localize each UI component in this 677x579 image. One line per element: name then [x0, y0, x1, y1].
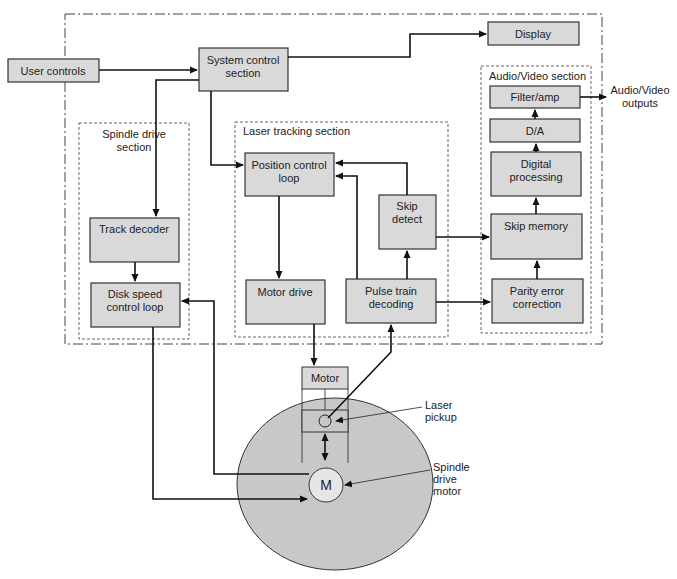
- parity-error-correction-block: Parity error correction: [492, 279, 583, 323]
- track-decoder-block: Track decoder: [90, 218, 179, 262]
- motor-drive-block: Motor drive: [246, 280, 325, 324]
- svg-text:decoding: decoding: [369, 298, 414, 310]
- system-to-display-arrow: [288, 34, 486, 57]
- av-outputs-label-1: Audio/Video: [610, 84, 669, 96]
- spindle-motor-label-3: motor: [433, 485, 461, 497]
- filter-amp-block: Filter/amp: [490, 86, 580, 108]
- skip-detect-block: Skip detect: [379, 195, 436, 249]
- svg-text:Parity error: Parity error: [510, 285, 565, 297]
- display-block: Display: [488, 22, 579, 45]
- svg-text:Track decoder: Track decoder: [99, 223, 169, 235]
- spindle-motor-label: M: [320, 477, 332, 493]
- user-controls-block: User controls: [8, 59, 99, 82]
- av-section-label: Audio/Video section: [489, 70, 586, 82]
- system-to-position-arrow: [211, 91, 243, 165]
- svg-text:Pulse train: Pulse train: [365, 285, 417, 297]
- spindle-section-label-2: section: [117, 141, 152, 153]
- svg-text:detect: detect: [392, 213, 422, 225]
- disk-speed-control-block: Disk speed control loop: [91, 283, 180, 327]
- svg-text:Position control: Position control: [251, 159, 326, 171]
- pulse-train-decoding-block: Pulse train decoding: [346, 279, 436, 323]
- svg-text:control loop: control loop: [107, 301, 164, 313]
- svg-text:Disk speed: Disk speed: [108, 288, 162, 300]
- svg-text:D/A: D/A: [526, 125, 545, 137]
- svg-text:System control: System control: [207, 54, 280, 66]
- laser-pickup-label-1: Laser: [425, 399, 453, 411]
- svg-text:Display: Display: [515, 28, 552, 40]
- svg-text:correction: correction: [513, 298, 561, 310]
- svg-text:Motor: Motor: [311, 372, 339, 384]
- block-diagram: Spindle drive section Laser tracking sec…: [0, 0, 677, 579]
- system-control-block: System control section: [199, 48, 288, 91]
- svg-text:Digital: Digital: [521, 158, 552, 170]
- av-outputs-label-2: outputs: [622, 97, 659, 109]
- skipdetect-to-position-arrow: [336, 163, 407, 195]
- pulse-to-position-arrow: [336, 176, 357, 279]
- digital-processing-block: Digital processing: [491, 152, 581, 196]
- laser-section-label: Laser tracking section: [243, 125, 350, 137]
- spindle-motor-label-2: drive: [433, 473, 457, 485]
- skip-memory-block: Skip memory: [491, 214, 582, 259]
- svg-text:Motor drive: Motor drive: [257, 286, 312, 298]
- system-to-track-decoder-arrow: [156, 80, 199, 216]
- svg-text:processing: processing: [509, 171, 562, 183]
- svg-text:Skip: Skip: [396, 200, 417, 212]
- laser-pickup-label-2: pickup: [425, 411, 457, 423]
- svg-text:User controls: User controls: [21, 65, 86, 77]
- spindle-motor-label-1: Spindle: [433, 461, 470, 473]
- da-block: D/A: [490, 119, 580, 142]
- svg-text:Filter/amp: Filter/amp: [511, 91, 560, 103]
- position-control-block: Position control loop: [245, 153, 334, 196]
- svg-text:loop: loop: [279, 172, 300, 184]
- svg-text:section: section: [226, 67, 261, 79]
- pickup-carriage: [302, 410, 348, 432]
- svg-text:Skip memory: Skip memory: [504, 220, 569, 232]
